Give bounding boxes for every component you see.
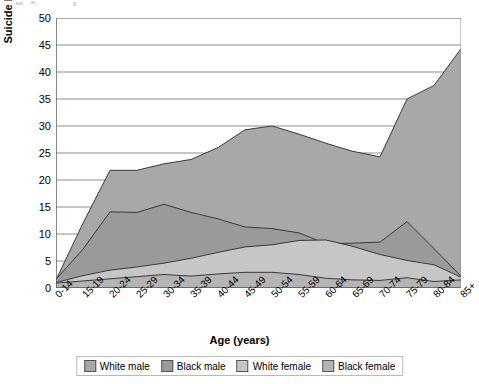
chart-figure: Suicide Rate per 100,000K 05101520253035… xyxy=(0,0,479,384)
scan-artifact xyxy=(0,0,479,8)
y-tick-label-40: 40 xyxy=(39,66,51,78)
legend-swatch-icon xyxy=(161,360,173,372)
legend-label: White female xyxy=(253,361,311,372)
legend-swatch-icon xyxy=(322,360,334,372)
legend-label: White male xyxy=(100,361,150,372)
y-tick-label-20: 20 xyxy=(39,174,51,186)
y-tick-label-0: 0 xyxy=(45,282,51,294)
x-axis-title: Age (years) xyxy=(0,334,479,346)
y-tick-label-30: 30 xyxy=(39,120,51,132)
legend-swatch-icon xyxy=(84,360,96,372)
legend-label: Black female xyxy=(338,361,395,372)
plot-area: 05101520253035404550 xyxy=(56,18,461,288)
y-tick-label-50: 50 xyxy=(39,12,51,24)
legend-item-white-female[interactable]: White female xyxy=(237,360,311,372)
chart-legend: White maleBlack maleWhite femaleBlack fe… xyxy=(76,356,404,376)
y-tick-label-10: 10 xyxy=(39,228,51,240)
x-axis-tick-labels: 0-1415-1920-2425-2930-3435-3940-4445-495… xyxy=(56,292,461,336)
legend-item-black-male[interactable]: Black male xyxy=(161,360,226,372)
y-tick-label-35: 35 xyxy=(39,93,51,105)
y-tick-label-45: 45 xyxy=(39,39,51,51)
y-axis-title: Suicide Rate per 100,000K xyxy=(2,0,14,60)
chart-canvas xyxy=(56,18,461,288)
y-tick-label-5: 5 xyxy=(45,255,51,267)
legend-label: Black male xyxy=(177,361,226,372)
y-tick-label-15: 15 xyxy=(39,201,51,213)
y-tick-label-25: 25 xyxy=(39,147,51,159)
legend-item-white-male[interactable]: White male xyxy=(84,360,150,372)
legend-item-black-female[interactable]: Black female xyxy=(322,360,395,372)
legend-swatch-icon xyxy=(237,360,249,372)
